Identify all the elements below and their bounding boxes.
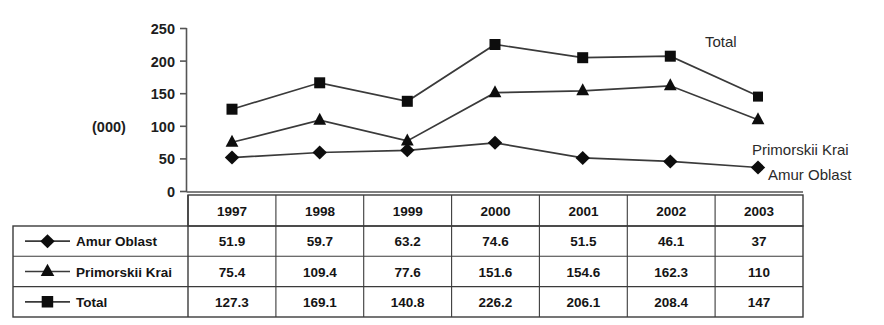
series-amur-marker [663,154,677,168]
series-label-amur-oblast: Amur Oblast [768,166,852,183]
table-header-cell: 2003 [744,204,775,219]
table-cell: 206.1 [567,295,601,310]
table-header-cell: 2000 [480,204,510,219]
y-axis-unit-label: (000) [92,119,126,135]
y-tick-label-100: 100 [151,119,175,135]
series-total-marker [490,39,501,50]
series-label-primorskii-krai: Primorskii Krai [752,141,849,158]
series-total-marker [577,52,588,63]
series-amur-marker [225,151,239,165]
chart-figure: 250 200 150 100 50 0 (000) [0,0,884,325]
series-primorskii-marker [664,78,677,90]
table-cell: 147 [748,295,771,310]
series-total [227,39,764,115]
table-cell: 46.1 [658,234,685,249]
series-total-marker [402,96,413,107]
series-total-marker [665,51,676,62]
series-total-marker [314,77,325,88]
table-header-cell: 1999 [393,204,423,219]
table-cell: 127.3 [215,295,249,310]
y-axis [180,28,187,192]
y-tick-label-250: 250 [151,21,175,37]
table-cell: 74.6 [482,234,509,249]
table-cell: 151.6 [479,265,513,280]
line-chart-svg: 250 200 150 100 50 0 (000) [0,0,884,325]
table-row-label: Primorskii Krai [76,265,172,280]
table-row-label: Amur Oblast [76,234,158,249]
table-cell: 63.2 [395,234,421,249]
series-primorskii-marker [576,83,589,95]
table-cell: 154.6 [567,265,601,280]
series-amur-marker [313,146,327,160]
table-header-cell: 2001 [568,204,599,219]
table-cell: 140.8 [391,295,425,310]
y-tick-label-150: 150 [151,86,175,102]
data-table: 1997 1998 1999 2000 2001 2002 2003 Amur … [13,195,803,317]
table-header-cell: 1998 [305,204,336,219]
table-cell: 110 [748,265,770,280]
table-cell: 162.3 [654,265,688,280]
table-cell: 75.4 [219,265,246,280]
table-header-cell: 1997 [217,204,247,219]
legend-diamond-icon [40,234,54,248]
series-label-total: Total [705,33,737,50]
table-cell: 208.4 [654,295,688,310]
series-amur-marker [751,161,765,175]
series-primorskii-marker [313,113,326,125]
series-amur-marker [400,143,414,157]
table-header-cell: 2002 [656,204,686,219]
series-amur-oblast [225,136,765,175]
series-primorskii-marker [489,85,502,97]
table-row: Primorskii Krai 75.4 109.4 77.6 151.6 15… [25,264,770,280]
y-tick-label-50: 50 [159,151,175,167]
y-tick-label-0: 0 [167,184,175,200]
y-tick-label-200: 200 [151,54,175,70]
series-amur-marker [488,136,502,150]
table-cell: 77.6 [395,265,422,280]
series-total-marker [227,104,238,115]
table-row: Total 127.3 169.1 140.8 226.2 206.1 208.… [25,295,770,310]
series-total-line [232,45,758,110]
table-cell: 51.5 [570,234,597,249]
table-row-label: Total [76,295,107,310]
table-cell: 226.2 [479,295,513,310]
table-cell: 37 [751,234,766,249]
legend-triangle-icon [41,264,55,276]
series-amur-marker [576,151,590,165]
table-cell: 51.9 [219,234,245,249]
legend-square-icon [42,296,54,308]
table-cell: 169.1 [303,295,337,310]
table-cell: 59.7 [307,234,333,249]
series-total-marker [753,92,763,102]
table-row: Amur Oblast 51.9 59.7 63.2 74.6 51.5 46.… [25,234,767,249]
table-cell: 109.4 [303,265,337,280]
